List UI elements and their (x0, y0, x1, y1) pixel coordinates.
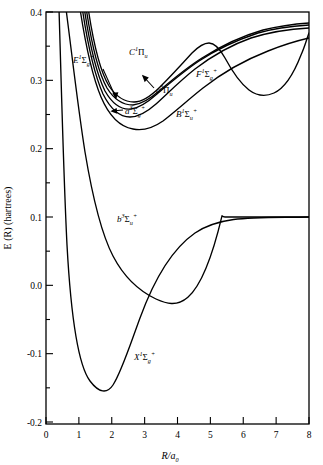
y-tick-label: -0.2 (27, 418, 42, 428)
x-tick-label: 2 (109, 430, 114, 440)
x-tick-label: 1 (77, 430, 82, 440)
y-tick-label: 0.4 (30, 8, 42, 18)
x-tick-label: 0 (44, 430, 49, 440)
y-axis-title-text: E (R) (hartrees) (2, 187, 14, 250)
y-tick-label: 0.2 (30, 144, 42, 154)
x-tick-label: 6 (241, 430, 246, 440)
x-axis-title: R/a0 (161, 450, 180, 463)
x-tick-label: 5 (208, 430, 213, 440)
potential-energy-curve-figure: 0.4 0.3 0.2 0.1 0.0 -0.1 -0.2 0 1 2 3 4 (0, 0, 323, 465)
y-tick-label: 0.1 (30, 213, 42, 223)
x-axis-tick-labels: 0 1 2 3 4 5 6 7 8 (44, 430, 312, 440)
y-axis-tick-labels: 0.4 0.3 0.2 0.1 0.0 -0.1 -0.2 (27, 8, 42, 428)
x-tick-label: 7 (274, 430, 279, 440)
x-tick-label: 8 (307, 430, 312, 440)
y-tick-label: 0.0 (30, 281, 42, 291)
y-tick-label: 0.3 (30, 76, 42, 86)
x-axis-title-text: R/a0 (161, 450, 180, 463)
y-tick-label: -0.1 (27, 349, 42, 359)
plot-canvas: 0.4 0.3 0.2 0.1 0.0 -0.1 -0.2 0 1 2 3 4 (0, 0, 323, 465)
x-tick-label: 3 (142, 430, 147, 440)
x-tick-label: 4 (175, 430, 180, 440)
y-axis-title: E (R) (hartrees) (2, 187, 14, 250)
